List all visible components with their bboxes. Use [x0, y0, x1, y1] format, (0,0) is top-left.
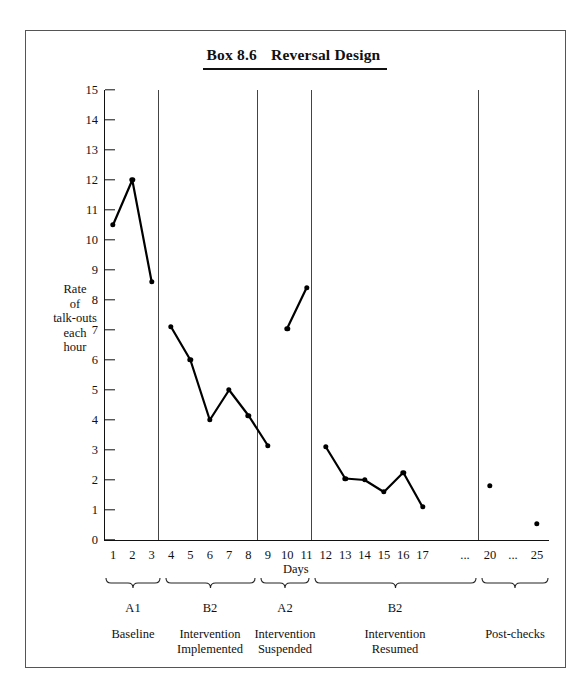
data-point	[246, 413, 251, 418]
data-point	[401, 470, 406, 475]
y-axis-tick	[105, 479, 115, 480]
y-axis-label-line: of	[47, 297, 103, 312]
data-point	[534, 521, 539, 526]
y-axis-tick-label: 10	[76, 233, 98, 248]
data-point	[149, 279, 154, 284]
y-axis-tick	[105, 329, 115, 330]
y-axis-tick-label: 14	[76, 113, 98, 128]
phase-separator-line	[257, 90, 258, 540]
y-axis-tick-label: 3	[76, 443, 98, 458]
y-axis-label-line: hour	[47, 340, 103, 355]
phase-code-label: B2	[388, 601, 403, 616]
figure-root: Box 8.6Reversal Design 01234567891011121…	[0, 0, 587, 698]
x-axis-label: Days	[283, 562, 309, 577]
y-axis-tick	[105, 89, 115, 90]
phase-name-line: Post-checks	[440, 627, 587, 642]
y-axis-tick	[105, 389, 115, 390]
data-point	[323, 444, 328, 449]
x-axis-tick-label: 25	[524, 548, 550, 563]
phase-name-line: Resumed	[320, 642, 470, 657]
y-axis-tick-label: 9	[76, 263, 98, 278]
phase-name-label: Post-checks	[440, 627, 587, 642]
y-axis-tick	[105, 239, 115, 240]
x-axis-ellipsis: ...	[500, 548, 526, 563]
y-axis-tick-label: 1	[76, 503, 98, 518]
y-axis-tick	[105, 209, 115, 210]
y-axis-tick	[105, 509, 115, 510]
y-axis-tick	[105, 149, 115, 150]
y-axis-tick-label: 15	[76, 83, 98, 98]
y-axis-tick-label: 5	[76, 383, 98, 398]
phase-code-label: B2	[203, 601, 218, 616]
y-axis-label-line: talk-outs	[47, 311, 103, 326]
y-axis-tick	[105, 179, 115, 180]
y-axis-label-line: each	[47, 326, 103, 341]
data-point	[226, 387, 231, 392]
y-axis-label-line: Rate	[47, 282, 103, 297]
data-point	[168, 324, 173, 329]
data-point	[284, 326, 289, 331]
y-axis-tick-label: 11	[76, 203, 98, 218]
data-point	[110, 222, 115, 227]
phase-separator-line	[158, 90, 159, 540]
data-point	[420, 504, 425, 509]
y-axis-tick-label: 2	[76, 473, 98, 488]
data-point	[362, 477, 367, 482]
data-point	[342, 476, 347, 481]
y-axis-tick	[105, 269, 115, 270]
data-point	[381, 489, 386, 494]
data-point	[188, 357, 193, 362]
data-point	[207, 417, 212, 422]
data-point	[304, 285, 309, 290]
y-axis-tick-label: 12	[76, 173, 98, 188]
x-axis-tick-label: 17	[410, 548, 436, 563]
y-axis-tick	[105, 419, 115, 420]
phase-code-label: A2	[277, 601, 292, 616]
y-axis-tick	[105, 539, 115, 540]
phase-separator-line	[478, 90, 479, 540]
y-axis-tick	[105, 299, 115, 300]
y-axis-tick-label: 4	[76, 413, 98, 428]
y-axis-label: Rateoftalk-outseachhour	[47, 282, 103, 355]
y-axis-tick	[105, 449, 115, 450]
phase-separator-line	[311, 90, 312, 540]
x-axis	[104, 540, 549, 541]
data-point	[487, 483, 492, 488]
data-point	[130, 177, 135, 182]
data-point	[265, 443, 270, 448]
y-axis	[104, 90, 105, 540]
y-axis-tick	[105, 359, 115, 360]
y-axis-tick-label: 13	[76, 143, 98, 158]
y-axis-tick-label: 0	[76, 533, 98, 548]
y-axis-tick	[105, 119, 115, 120]
phase-code-label: A1	[125, 601, 140, 616]
x-axis-ellipsis: ...	[452, 548, 478, 563]
